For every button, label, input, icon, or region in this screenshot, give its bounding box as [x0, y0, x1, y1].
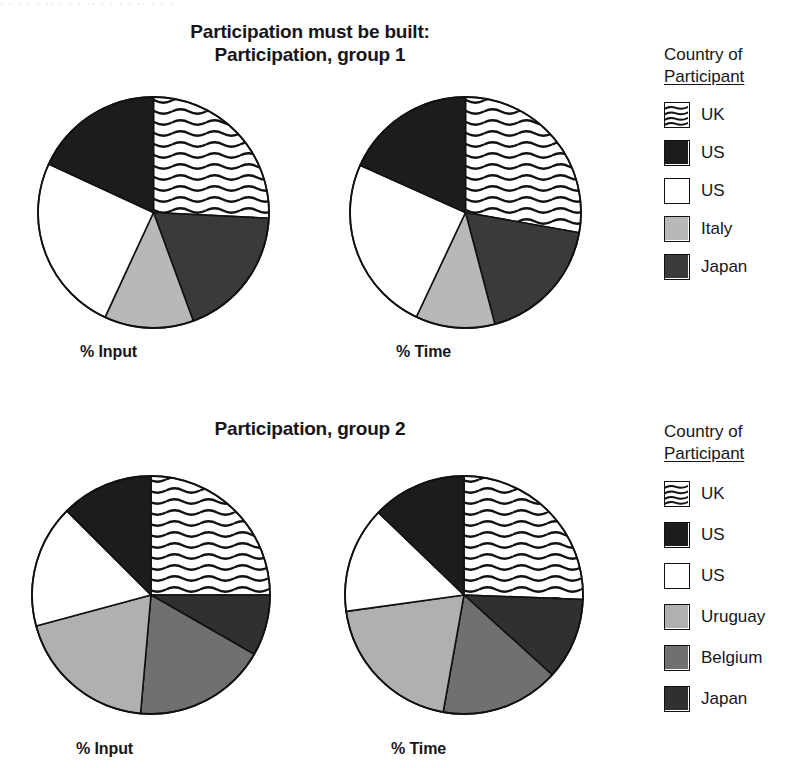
- legend-item-label: US: [701, 566, 725, 586]
- legend-item-label: Japan: [701, 257, 747, 277]
- legend-item-us-2[interactable]: US: [664, 555, 802, 596]
- legend-swatch-solid-icon: [664, 604, 690, 630]
- legend-item-uruguay-3[interactable]: Uruguay: [664, 596, 802, 637]
- pie-slice[interactable]: [466, 97, 582, 233]
- pie-label-group1-input: % Input: [80, 343, 137, 361]
- pie-slice[interactable]: [151, 476, 270, 595]
- legend-swatch-solid-icon: [664, 522, 690, 548]
- pie-chart-group2-input[interactable]: [30, 474, 272, 716]
- pie-label-group2-time: % Time: [391, 740, 446, 758]
- legend-item-label: UK: [701, 105, 725, 125]
- legend-swatch-solid-icon: [664, 216, 690, 242]
- legend-title-line-1: Country of: [664, 44, 802, 66]
- pie-chart-group1-time[interactable]: [348, 95, 583, 330]
- pie-slice[interactable]: [346, 595, 464, 712]
- legend-title-group-2: Country of Participant: [664, 421, 802, 465]
- legend-item-label: US: [701, 525, 725, 545]
- page-title-line-2: Participation, group 1: [0, 43, 620, 66]
- pie-slice[interactable]: [154, 97, 269, 218]
- legend-group-2: Country of Participant UKUSUSUruguayBelg…: [664, 421, 802, 719]
- legend-swatch-hatch-icon: [664, 102, 690, 128]
- legend-item-belgium-4[interactable]: Belgium: [664, 637, 802, 678]
- pie-chart-group2-time[interactable]: [343, 474, 585, 716]
- legend-item-uk-0[interactable]: UK: [664, 473, 802, 514]
- pie-slice[interactable]: [464, 476, 583, 599]
- page-title-line-1: Participation must be built:: [0, 20, 620, 43]
- page-title-group-1: Participation must be built: Participati…: [0, 20, 620, 66]
- pie-label-group1-time: % Time: [396, 343, 451, 361]
- legend-item-japan-5[interactable]: Japan: [664, 678, 802, 719]
- legend-title-line-1: Country of: [664, 421, 802, 443]
- legend-item-italy-3[interactable]: Italy: [664, 210, 802, 248]
- legend-item-uk-0[interactable]: UK: [664, 96, 802, 134]
- pie-label-group2-input: % Input: [76, 740, 133, 758]
- legend-item-label: US: [701, 181, 725, 201]
- legend-item-label: UK: [701, 484, 725, 504]
- legend-item-us-1[interactable]: US: [664, 514, 802, 555]
- legend-swatch-solid-icon: [664, 686, 690, 712]
- legend-swatch-solid-icon: [664, 178, 690, 204]
- legend-swatch-solid-icon: [664, 645, 690, 671]
- legend-group-1: Country of Participant UKUSUSItalyJapan: [664, 44, 802, 286]
- scan-artifact-strip: · · · · · ·· · · · ·· · · · · ·· · · ·: [0, 0, 802, 9]
- legend-title-line-2: Participant: [664, 443, 802, 465]
- legend-item-us-2[interactable]: US: [664, 172, 802, 210]
- page-title-group-2: Participation, group 2: [0, 417, 620, 440]
- legend-items-group-2: UKUSUSUruguayBelgiumJapan: [664, 473, 802, 719]
- legend-item-label: Uruguay: [701, 607, 765, 627]
- legend-item-label: US: [701, 143, 725, 163]
- legend-swatch-hatch-icon: [664, 481, 690, 507]
- pie-chart-group1-input[interactable]: [36, 95, 271, 330]
- legend-swatch-solid-icon: [664, 140, 690, 166]
- legend-items-group-1: UKUSUSItalyJapan: [664, 96, 802, 286]
- legend-title-group-1: Country of Participant: [664, 44, 802, 88]
- legend-item-label: Belgium: [701, 648, 762, 668]
- legend-item-label: Italy: [701, 219, 732, 239]
- legend-swatch-solid-icon: [664, 254, 690, 280]
- legend-title-line-2: Participant: [664, 66, 802, 88]
- legend-swatch-solid-icon: [664, 563, 690, 589]
- legend-item-us-1[interactable]: US: [664, 134, 802, 172]
- legend-item-japan-4[interactable]: Japan: [664, 248, 802, 286]
- legend-item-label: Japan: [701, 689, 747, 709]
